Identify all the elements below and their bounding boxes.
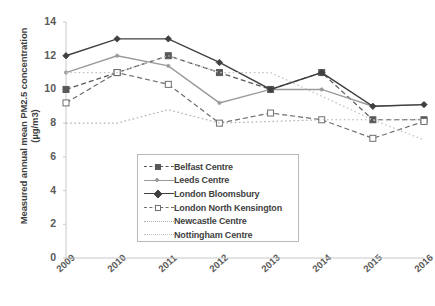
legend-swatch-icon [144,202,174,213]
data-point-marker [167,64,170,67]
legend-item: London Bloomsbury [144,187,298,201]
legend-label: London Bloomsbury [174,189,259,199]
legend-label: Nottingham Centre [174,230,252,240]
data-point-marker [421,101,427,107]
legend-swatch-icon [144,175,174,186]
legend-item: Newcastle Centre [144,214,298,228]
legend-swatch-icon [144,188,174,199]
data-point-marker [63,86,69,92]
data-point-marker [63,100,69,106]
legend-label: Belfast Centre [174,162,233,172]
legend-swatch-icon [144,229,174,240]
legend-item: London North Kensington [144,201,298,215]
data-point-marker [165,81,171,87]
data-point-marker [216,59,222,65]
legend-item: Leeds Centre [144,174,298,188]
legend-swatch-icon [144,216,174,227]
data-point-marker [63,53,69,59]
legend-item: Nottingham Centre [144,228,298,242]
data-point-marker [218,101,221,104]
series-line [66,56,424,140]
series-path [66,56,424,140]
data-point-marker [165,53,171,59]
data-point-marker [115,54,118,57]
data-point-marker [165,36,171,42]
data-point-marker [320,88,323,91]
data-point-marker [370,135,376,141]
data-point-marker [370,117,376,123]
series-line [63,53,427,123]
data-point-marker [268,110,274,116]
chart-legend: Belfast CentreLeeds CentreLondon Bloomsb… [137,154,299,242]
legend-swatch-icon [144,161,174,172]
legend-label: London North Kensington [174,203,282,213]
series-path [66,56,424,120]
legend-item: Belfast Centre [144,160,298,174]
legend-label: Newcastle Centre [174,216,247,226]
data-point-marker [114,36,120,42]
legend-label: Leeds Centre [174,175,229,185]
